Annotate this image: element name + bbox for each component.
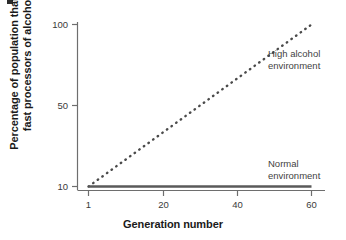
y-tick-label-10: 10	[38, 181, 68, 192]
x-tick-label-40: 40	[218, 199, 258, 210]
x-tick-label-1: 1	[69, 199, 109, 210]
chart-figure: 100 50 10 1 20 40 60 High alcohol enviro…	[0, 0, 346, 240]
annotation-normal: Normal environment	[268, 158, 320, 182]
y-axis-title: Percentage of population that are fast p…	[8, 0, 34, 152]
x-tick-label-20: 20	[144, 199, 184, 210]
x-axis-title: Generation number	[0, 218, 346, 231]
x-tick-label-60: 60	[292, 199, 332, 210]
annotation-high-alcohol: High alcohol environment	[268, 48, 320, 72]
y-axis-title-container: Percentage of population that are fast p…	[8, 0, 44, 152]
